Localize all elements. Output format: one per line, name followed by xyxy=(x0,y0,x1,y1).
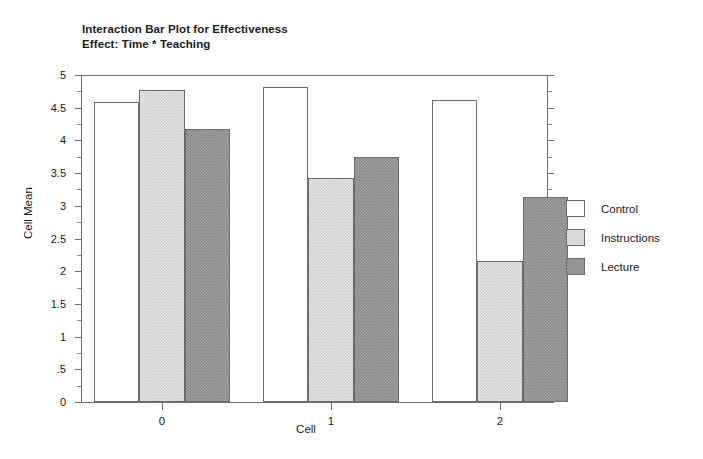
legend-item-lecture[interactable]: Lecture xyxy=(566,252,660,281)
y-tick-minor xyxy=(77,124,81,125)
y-tick-minor xyxy=(77,288,81,289)
y-tick-minor-right xyxy=(548,157,552,158)
bar-instructions-cell-1[interactable] xyxy=(308,178,353,402)
x-tick-label: 1 xyxy=(328,415,334,427)
legend-swatch-control xyxy=(566,200,585,217)
legend-label-lecture: Lecture xyxy=(601,261,639,273)
plot-area: 0.511.522.533.544.55 012 xyxy=(81,75,548,403)
legend-item-instructions[interactable]: Instructions xyxy=(566,223,660,252)
legend-label-control: Control xyxy=(601,203,638,215)
y-tick-minor-right xyxy=(548,91,552,92)
y-tick-label: 1 xyxy=(60,331,66,343)
x-tick xyxy=(500,403,501,410)
y-tick-major: 2 xyxy=(75,271,81,272)
y-tick-label: 1.5 xyxy=(51,298,66,310)
y-tick-major: 3.5 xyxy=(75,173,81,174)
y-tick-major-right xyxy=(548,402,554,403)
y-tick-minor xyxy=(77,255,81,256)
y-tick-label: 3.5 xyxy=(51,167,66,179)
y-tick-minor xyxy=(77,91,81,92)
x-tick xyxy=(162,403,163,410)
y-tick-major-right xyxy=(548,173,554,174)
y-tick-minor xyxy=(77,353,81,354)
x-tick-label: 0 xyxy=(159,415,165,427)
y-tick-label: 5 xyxy=(60,69,66,81)
y-tick-label: 2 xyxy=(60,265,66,277)
bar-lecture-cell-0[interactable] xyxy=(185,129,230,402)
y-tick-major: 2.5 xyxy=(75,239,81,240)
y-tick-major-right xyxy=(548,140,554,141)
legend-swatch-lecture xyxy=(566,258,585,275)
y-tick-minor xyxy=(77,157,81,158)
y-tick-label: 3 xyxy=(60,200,66,212)
legend-item-control[interactable]: Control xyxy=(566,194,660,223)
axis-line-bottom xyxy=(81,402,548,403)
y-tick-minor xyxy=(77,189,81,190)
y-tick-minor xyxy=(77,320,81,321)
y-tick-major: 4.5 xyxy=(75,108,81,109)
x-axis-label: Cell xyxy=(0,423,612,435)
axis-line-top xyxy=(81,75,548,76)
legend: Control Instructions Lecture xyxy=(566,194,660,281)
legend-label-instructions: Instructions xyxy=(601,232,660,244)
axis-line-left xyxy=(81,75,82,403)
y-tick-minor xyxy=(77,222,81,223)
bar-control-cell-0[interactable] xyxy=(94,102,139,402)
y-tick-major: .5 xyxy=(75,369,81,370)
y-tick-label: .5 xyxy=(57,363,66,375)
bar-lecture-cell-1[interactable] xyxy=(354,157,399,402)
y-tick-minor xyxy=(77,386,81,387)
y-tick-major: 4 xyxy=(75,140,81,141)
legend-swatch-instructions xyxy=(566,229,585,246)
y-tick-minor-right xyxy=(548,124,552,125)
y-axis-label: Cell Mean xyxy=(22,187,34,239)
x-tick-label: 2 xyxy=(497,415,503,427)
y-tick-major-right xyxy=(548,108,554,109)
y-tick-major: 3 xyxy=(75,206,81,207)
y-tick-label: 4 xyxy=(60,134,66,146)
bar-chart-figure: Interaction Bar Plot for Effectiveness E… xyxy=(0,0,703,459)
y-tick-minor-right xyxy=(548,189,552,190)
x-tick xyxy=(331,403,332,410)
y-tick-major: 1.5 xyxy=(75,304,81,305)
bar-control-cell-2[interactable] xyxy=(432,100,477,402)
bar-lecture-cell-2[interactable] xyxy=(523,197,568,402)
bar-control-cell-1[interactable] xyxy=(263,87,308,402)
y-tick-major: 0 xyxy=(75,402,81,403)
chart-title: Interaction Bar Plot for Effectiveness xyxy=(82,22,288,37)
y-tick-major-right xyxy=(548,75,554,76)
y-tick-major: 1 xyxy=(75,337,81,338)
y-tick-label: 4.5 xyxy=(51,102,66,114)
y-tick-major: 5 xyxy=(75,75,81,76)
bar-instructions-cell-0[interactable] xyxy=(139,90,184,402)
y-tick-label: 0 xyxy=(60,396,66,408)
chart-subtitle: Effect: Time * Teaching xyxy=(82,37,288,52)
y-tick-label: 2.5 xyxy=(51,233,66,245)
bar-instructions-cell-2[interactable] xyxy=(477,261,522,402)
chart-title-block: Interaction Bar Plot for Effectiveness E… xyxy=(82,22,288,51)
